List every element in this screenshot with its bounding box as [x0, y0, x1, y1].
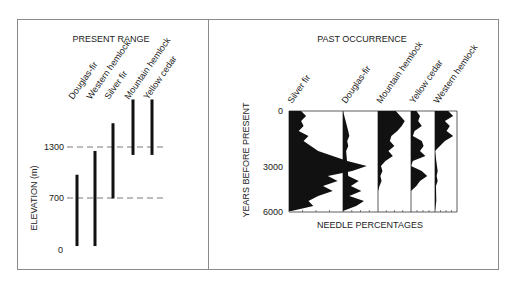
range-labels: Douglas-firWestern hemlockSilver firMoun…: [66, 35, 178, 101]
tick-0: 0: [58, 245, 63, 255]
tick-0-years: 0: [278, 106, 283, 116]
range-bar: [112, 123, 115, 198]
needle-percentages-label: NEEDLE PERCENTAGES: [317, 220, 423, 230]
past-occurrence-title: PAST OCCURRENCE: [317, 34, 407, 44]
range-bar: [76, 175, 79, 246]
needle-percentage-area: [343, 111, 364, 211]
species-label: Douglas-fir: [339, 64, 372, 105]
needle-percentage-area: [435, 111, 453, 211]
tick-6000-years: 6000: [263, 207, 283, 217]
range-bar: [94, 151, 97, 246]
years-axis-label: YEARS BEFORE PRESENT: [241, 102, 251, 218]
tick-1300: 1300: [44, 142, 64, 152]
tick-700: 700: [49, 193, 64, 203]
range-bar: [151, 99, 154, 154]
range-bars: [76, 99, 154, 246]
figure-svg: PRESENT RANGE ELEVATION (m) 0 700 1300 D…: [0, 0, 517, 287]
pollen-diagram: Silver firDouglas-firMountain hemlockYel…: [285, 39, 479, 212]
tick-3000-years: 3000: [263, 162, 283, 172]
past-occurrence-panel: PAST OCCURRENCE YEARS BEFORE PRESENT 0 3…: [241, 34, 480, 230]
elevation-axis-label: ELEVATION (m): [29, 165, 39, 230]
needle-percentage-area: [411, 111, 427, 191]
present-range-title: PRESENT RANGE: [73, 34, 150, 44]
needle-percentage-area: [289, 111, 367, 211]
range-bar: [132, 99, 135, 154]
species-label: Silver fir: [285, 73, 312, 105]
species-label: Western hemlock: [431, 42, 479, 105]
needle-percentage-area: [378, 111, 405, 191]
present-range-panel: PRESENT RANGE ELEVATION (m) 0 700 1300 D…: [29, 34, 179, 255]
